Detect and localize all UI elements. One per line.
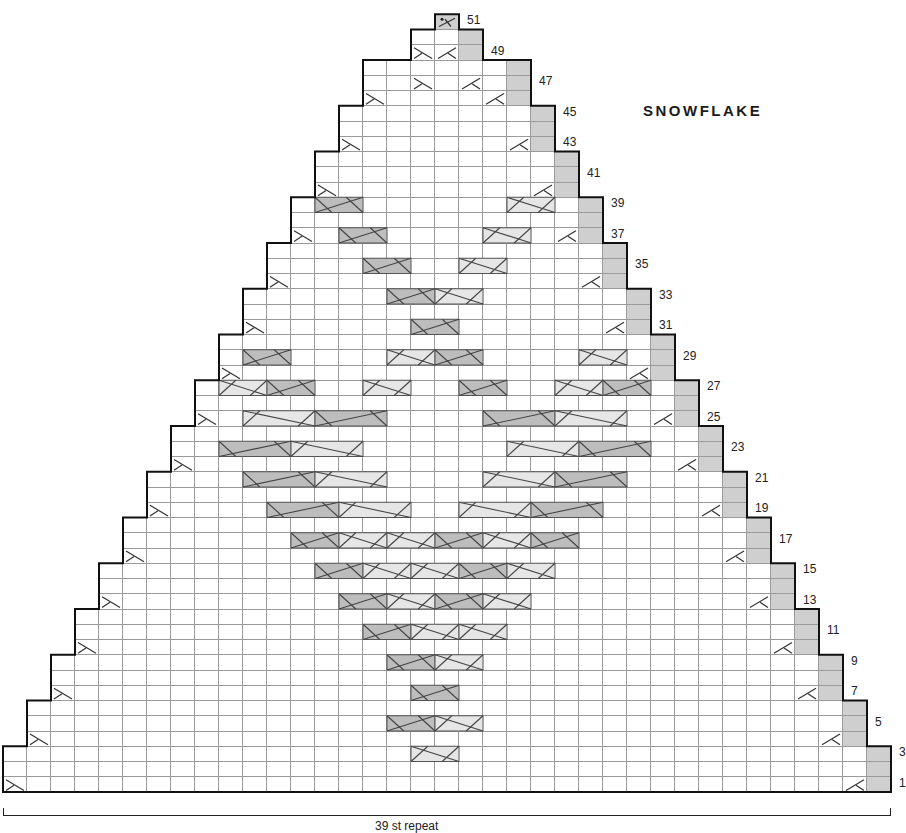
row-number: 45: [563, 105, 576, 119]
row-number: 43: [563, 135, 576, 149]
chart-title: SNOWFLAKE: [643, 102, 762, 119]
row-number: 51: [467, 13, 480, 27]
row-number: 5: [875, 715, 882, 729]
row-number: 15: [803, 562, 816, 576]
row-number: 11: [827, 623, 839, 637]
row-number: 33: [659, 288, 672, 302]
row-number: 39: [611, 196, 624, 210]
row-number: 31: [659, 318, 672, 332]
row-number: 27: [707, 379, 720, 393]
row-number: 23: [731, 440, 744, 454]
repeat-label: 39 st repeat: [375, 819, 438, 833]
row-number: 49: [491, 44, 504, 58]
row-number: 47: [539, 74, 552, 88]
row-number: 41: [587, 166, 600, 180]
repeat-bracket: [3, 808, 891, 816]
row-number: 25: [707, 410, 720, 424]
row-number: 37: [611, 227, 624, 241]
row-number: 9: [851, 654, 858, 668]
row-number: 1: [899, 776, 906, 790]
row-number: 13: [803, 593, 816, 607]
row-number: 21: [755, 471, 768, 485]
row-number: 3: [899, 745, 906, 759]
row-number: 35: [635, 257, 648, 271]
row-number: 29: [683, 349, 696, 363]
row-number: 17: [779, 532, 792, 546]
row-number: 7: [851, 684, 858, 698]
row-number: 19: [755, 501, 768, 515]
chart-outline: [3, 14, 891, 792]
